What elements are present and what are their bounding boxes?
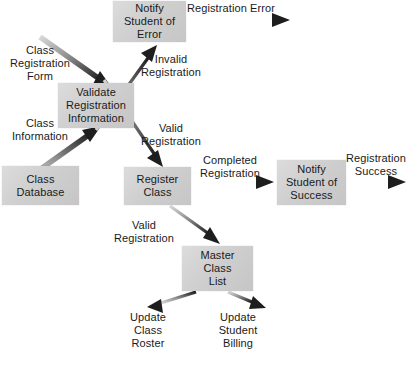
edge-label-invalid-registration: Invalid Registration	[133, 53, 209, 79]
node-label: Notify Student of Error	[124, 2, 175, 41]
node-notify-student-of-error[interactable]: Notify Student of Error	[113, 1, 186, 42]
edge-label-registration-success: Registration Success	[341, 152, 411, 178]
node-label: Notify Student of Success	[286, 163, 337, 202]
node-class-database[interactable]: Class Database	[2, 166, 79, 205]
edge-master-to-class-roster	[147, 292, 196, 313]
edge-label-valid-registration-lower: Valid Registration	[106, 219, 182, 245]
node-notify-student-of-success[interactable]: Notify Student of Success	[277, 160, 346, 205]
data-flow-diagram: Notify Student of Error Validate Registr…	[0, 0, 414, 370]
terminal-label-update-class-roster: Update Class Roster	[117, 311, 179, 350]
edge-notify-error-out	[186, 13, 290, 27]
node-master-class-list[interactable]: Master Class List	[182, 246, 253, 291]
node-label: Master Class List	[200, 249, 234, 288]
edge-label-class-information: Class Information	[4, 117, 76, 143]
edge-label-registration-error: Registration Error	[187, 2, 291, 15]
edge-label-valid-registration-upper: Valid Registration	[133, 122, 209, 148]
node-register-class[interactable]: Register Class	[124, 167, 191, 205]
node-label: Register Class	[137, 173, 179, 199]
edge-label-completed-registration: Completed Registration	[190, 154, 270, 180]
terminal-label-update-student-billing: Update Student Billing	[205, 311, 271, 350]
node-label: Class Database	[17, 173, 65, 199]
edge-master-to-student-billing	[228, 292, 266, 309]
edge-label-class-registration-form: Class Registration Form	[4, 44, 76, 83]
